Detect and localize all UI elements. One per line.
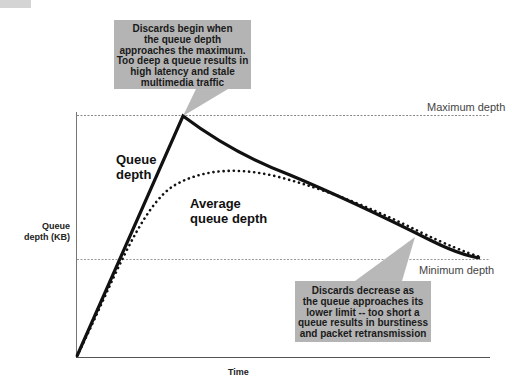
- top-callout-pointer: [183, 89, 228, 116]
- y-axis-label: Queue depth (KB): [14, 221, 70, 243]
- label-line: Average: [190, 196, 267, 211]
- callout-text: the queue approaches its: [295, 297, 431, 308]
- label-line: Queue: [116, 152, 156, 167]
- callout-text: and packet retransmission: [295, 329, 431, 340]
- label-line: depth (KB): [14, 232, 70, 243]
- maximum-depth-label: Maximum depth: [427, 101, 505, 113]
- label-line: depth: [116, 167, 156, 182]
- bottom-callout: Discards decrease as the queue approache…: [295, 281, 431, 342]
- minimum-depth-label: Minimum depth: [419, 264, 494, 276]
- queue-depth-chart: [0, 0, 512, 389]
- queue-depth-series-label: Queue depth: [116, 152, 156, 182]
- callout-text: multimedia traffic: [114, 78, 251, 89]
- x-axis-label: Time: [228, 367, 249, 377]
- average-queue-depth-series-label: Average queue depth: [190, 196, 267, 226]
- label-line: Queue: [14, 221, 70, 232]
- callout-text: the queue depth: [114, 35, 251, 46]
- top-callout: Discards begin when the queue depth appr…: [114, 20, 251, 89]
- label-line: queue depth: [190, 211, 267, 226]
